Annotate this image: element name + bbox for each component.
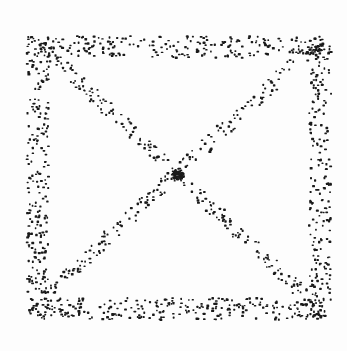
frame-left-dot bbox=[31, 283, 34, 285]
diagonal-tr-bl-dot bbox=[61, 275, 63, 278]
diagonal-tr-bl-dot bbox=[182, 158, 184, 160]
frame-top-dot bbox=[34, 40, 36, 42]
frame-right-dot bbox=[328, 159, 331, 161]
frame-bottom-dot bbox=[246, 298, 248, 299]
frame-bottom-dot bbox=[242, 306, 244, 308]
diagonal-tl-br-dot bbox=[62, 67, 64, 70]
diagonal-tr-bl-dot bbox=[147, 199, 149, 201]
diagonal-tr-bl-dot bbox=[159, 194, 162, 196]
frame-left-dot bbox=[45, 183, 47, 185]
frame-left-dot bbox=[26, 63, 29, 65]
frame-left-dot bbox=[27, 182, 29, 184]
frame-right-dot bbox=[309, 40, 312, 42]
frame-bottom-dot bbox=[44, 311, 47, 313]
frame-top-dot bbox=[140, 40, 143, 42]
frame-top-dot bbox=[124, 37, 127, 39]
frame-right-dot bbox=[319, 309, 322, 312]
frame-right-dot bbox=[316, 210, 319, 212]
diagonal-tl-br-dot bbox=[266, 266, 268, 268]
diagonal-tl-br-dot bbox=[81, 80, 83, 82]
diagonal-tr-bl-dot bbox=[104, 241, 106, 243]
frame-top-dot bbox=[165, 43, 168, 45]
frame-right-dot bbox=[318, 65, 320, 67]
frame-bottom-dot bbox=[242, 307, 244, 309]
frame-top-dot bbox=[177, 41, 180, 43]
frame-bottom-dot bbox=[56, 300, 59, 302]
frame-bottom-dot bbox=[62, 309, 64, 311]
frame-top-dot bbox=[160, 46, 163, 48]
diagonal-tr-bl-dot bbox=[41, 291, 44, 293]
diagonal-tr-bl-dot bbox=[288, 69, 290, 71]
frame-bottom-dot bbox=[188, 310, 190, 313]
dot-layer bbox=[26, 35, 333, 321]
frame-right-dot bbox=[313, 79, 316, 81]
frame-bottom-dot bbox=[80, 306, 82, 308]
frame-bottom-dot bbox=[49, 308, 51, 310]
diagonal-tr-bl-dot bbox=[107, 234, 109, 236]
diagonal-tl-br-dot bbox=[305, 289, 308, 291]
frame-right-dot bbox=[309, 128, 311, 130]
frame-bottom-dot bbox=[44, 314, 46, 316]
diagonal-tl-br-dot bbox=[57, 60, 60, 62]
frame-bottom-dot bbox=[143, 316, 145, 318]
diagonal-tl-br-dot bbox=[97, 89, 99, 91]
frame-bottom-dot bbox=[116, 308, 118, 309]
frame-right-dot bbox=[330, 93, 332, 95]
frame-left-dot bbox=[40, 180, 43, 182]
frame-bottom-dot bbox=[288, 306, 290, 309]
frame-top-dot bbox=[200, 36, 203, 38]
frame-bottom-dot bbox=[185, 305, 187, 307]
diagonal-tl-br-dot bbox=[64, 70, 67, 72]
frame-bottom-dot bbox=[290, 304, 292, 305]
frame-right-dot bbox=[319, 39, 321, 41]
diagonal-tr-bl-dot bbox=[237, 114, 239, 116]
frame-left-dot bbox=[38, 288, 40, 290]
diagonal-tl-br-dot bbox=[71, 69, 74, 71]
frame-top-dot bbox=[187, 38, 189, 40]
frame-right-dot bbox=[317, 98, 319, 100]
diagonal-tr-bl-dot bbox=[153, 190, 155, 192]
frame-bottom-dot bbox=[220, 317, 222, 319]
frame-left-dot bbox=[32, 205, 34, 207]
frame-right-dot bbox=[329, 191, 331, 193]
frame-bottom-dot bbox=[58, 308, 61, 310]
diagonal-tr-bl-dot bbox=[128, 218, 130, 220]
frame-right-dot bbox=[325, 169, 328, 171]
frame-right-dot bbox=[308, 112, 310, 114]
frame-bottom-dot bbox=[156, 305, 158, 307]
frame-top-dot bbox=[112, 41, 114, 43]
diagonal-tl-br-dot bbox=[132, 131, 134, 133]
frame-left-dot bbox=[41, 80, 43, 82]
diagonal-tr-bl-dot bbox=[267, 79, 270, 80]
diagonal-tl-br-dot bbox=[292, 292, 294, 294]
diagonal-tl-br-dot bbox=[209, 213, 211, 215]
frame-right-dot bbox=[322, 105, 325, 107]
frame-top-dot bbox=[167, 40, 170, 41]
frame-left-dot bbox=[27, 71, 30, 73]
frame-right-dot bbox=[329, 217, 331, 220]
frame-left-dot bbox=[35, 281, 38, 283]
frame-top-dot bbox=[38, 52, 40, 54]
diagonal-tl-br-dot bbox=[216, 216, 218, 218]
diagonal-tr-bl-dot bbox=[166, 172, 169, 174]
frame-left-dot bbox=[37, 221, 40, 224]
diagonal-tr-bl-dot bbox=[275, 70, 277, 72]
diagonal-tl-br-dot bbox=[167, 159, 170, 161]
diagonal-tr-bl-dot bbox=[91, 245, 93, 247]
frame-right-dot bbox=[317, 259, 319, 261]
frame-right-dot bbox=[323, 100, 325, 102]
frame-bottom-dot bbox=[265, 306, 268, 307]
frame-left-dot bbox=[37, 211, 39, 213]
frame-top-dot bbox=[206, 39, 209, 41]
frame-left-dot bbox=[45, 306, 48, 308]
frame-left-dot bbox=[38, 232, 41, 234]
diagonal-tl-br-dot bbox=[53, 48, 55, 50]
frame-top-dot bbox=[190, 40, 192, 42]
frame-left-dot bbox=[42, 198, 45, 200]
diagonal-tl-br-dot bbox=[127, 118, 129, 121]
frame-top-dot bbox=[88, 52, 91, 54]
frame-right-dot bbox=[322, 225, 324, 227]
frame-right-dot bbox=[323, 298, 325, 300]
frame-right-dot bbox=[316, 74, 319, 76]
frame-left-dot bbox=[45, 231, 48, 233]
